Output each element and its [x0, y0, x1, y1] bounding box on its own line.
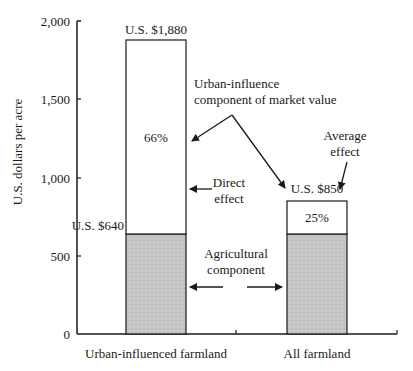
y-axis: 2,000 1,500 1,000 500 0 U.S. dollars per… — [10, 14, 81, 342]
bar-agricultural-label: U.S. $640 — [72, 218, 124, 233]
annotation-text: effect — [214, 191, 244, 206]
annotation-text: component — [207, 262, 265, 277]
annotation-text: Average — [323, 128, 366, 143]
y-axis-label: U.S. dollars per acre — [10, 99, 25, 206]
annotation-text: Agricultural — [204, 246, 268, 261]
bar-percent-label: 25% — [305, 210, 329, 225]
arrow-icon — [192, 115, 232, 141]
stacked-bar-chart: 2,000 1,500 1,000 500 0 U.S. dollars per… — [0, 0, 413, 371]
bar-segment-agricultural — [287, 234, 347, 334]
annotation-text: effect — [330, 144, 360, 159]
annotation-average-effect: Average effect — [323, 128, 366, 189]
y-tick-label: 2,000 — [41, 14, 70, 29]
x-axis: Urban-influenced farmland All farmland — [77, 330, 397, 361]
x-category-label: Urban-influenced farmland — [85, 346, 227, 361]
y-tick-label: 1,500 — [41, 92, 70, 107]
annotation-direct-effect: Direct effect — [190, 175, 246, 206]
arrow-icon — [340, 162, 347, 189]
annotation-text: Direct — [213, 175, 246, 190]
annotation-text: Urban-influence — [194, 76, 279, 91]
y-tick-label: 0 — [64, 327, 71, 342]
annotation-urban-influence: Urban-influence component of market valu… — [192, 76, 337, 188]
bar-segment-agricultural — [126, 234, 186, 334]
x-category-label: All farmland — [284, 346, 351, 361]
annotation-agricultural-component: Agricultural component — [190, 246, 282, 287]
y-tick-label: 500 — [51, 249, 71, 264]
bar-total-label: U.S. $850 — [291, 181, 343, 196]
bar-all-farmland: U.S. $850 25% — [287, 181, 347, 334]
annotation-text: component of market value — [194, 92, 337, 107]
bar-urban-influenced: U.S. $1,880 66% U.S. $640 — [72, 22, 187, 334]
bar-total-label: U.S. $1,880 — [125, 22, 187, 37]
y-tick-label: 1,000 — [41, 171, 70, 186]
bar-percent-label: 66% — [144, 130, 168, 145]
